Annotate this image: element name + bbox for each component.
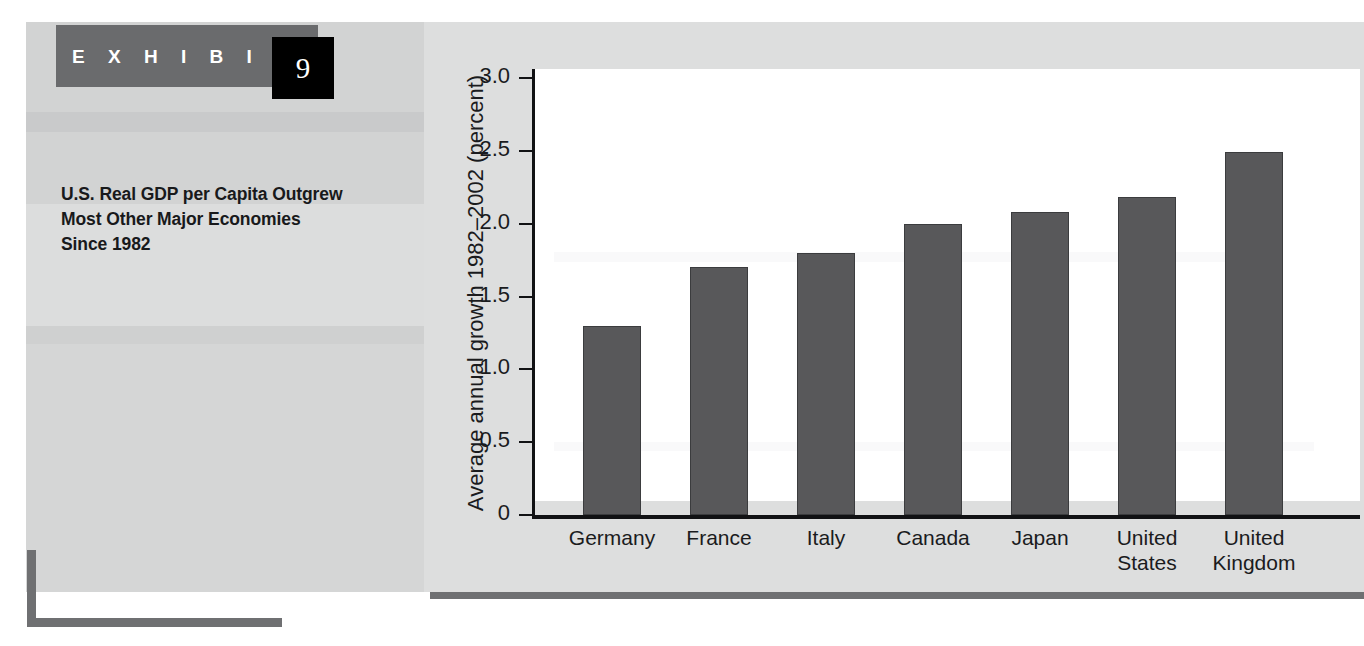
y-axis-tick-label: 2.5 [438, 136, 510, 162]
y-axis-tick-label: 1.5 [438, 282, 510, 308]
x-axis-label-line: Japan [987, 525, 1093, 550]
bar-united-states[interactable] [1118, 197, 1176, 515]
bar-canada[interactable] [904, 224, 962, 515]
x-axis-label-united-kingdom: UnitedKingdom [1201, 525, 1307, 575]
x-axis-label-line: Germany [559, 525, 665, 550]
bar-italy[interactable] [797, 253, 855, 515]
y-axis-tick-label: 3.0 [438, 63, 510, 89]
y-axis-tick-label: 2.0 [438, 209, 510, 235]
chart-panel: Average annual growth 1982–2002 (percent… [424, 22, 1364, 592]
x-axis-label-france: France [666, 525, 772, 550]
x-axis-label-italy: Italy [773, 525, 879, 550]
y-axis-tick-label: 0 [438, 500, 510, 526]
y-axis-tick-mark [519, 441, 533, 443]
exhibit-sidebar: E X H I B I T 9 U.S. Real GDP per Capita… [26, 22, 424, 592]
y-axis-tick-mark [519, 150, 533, 152]
sidebar-band-6 [26, 344, 424, 592]
exhibit-number: 9 [272, 37, 334, 99]
exhibit-title: U.S. Real GDP per Capita Outgrew Most Ot… [61, 182, 351, 257]
chart-bottom-rule [430, 592, 1364, 599]
x-axis-label-line: United [1201, 525, 1307, 550]
corner-bracket-vertical [27, 550, 36, 626]
x-axis-label-line: Canada [880, 525, 986, 550]
bar-germany[interactable] [583, 326, 641, 515]
x-axis-label-canada: Canada [880, 525, 986, 550]
x-axis-label-line: States [1094, 550, 1200, 575]
y-axis-tick-mark [519, 296, 533, 298]
x-axis-label-line: Kingdom [1201, 550, 1307, 575]
y-axis-tick-label: 0.5 [438, 427, 510, 453]
x-axis-label-line: Italy [773, 525, 879, 550]
x-axis-label-line: United [1094, 525, 1200, 550]
y-axis-tick-mark [519, 223, 533, 225]
sidebar-band-2 [26, 112, 424, 132]
exhibit-label: E X H I B I T [72, 46, 296, 68]
y-axis-tick-mark [519, 368, 533, 370]
x-axis-label-line: France [666, 525, 772, 550]
bar-united-kingdom[interactable] [1225, 152, 1283, 515]
sidebar-band-5 [26, 326, 424, 344]
y-axis-tick-label: 1.0 [438, 354, 510, 380]
y-axis-tick-mark [519, 77, 533, 79]
x-axis-label-united-states: UnitedStates [1094, 525, 1200, 575]
bar-japan[interactable] [1011, 212, 1069, 515]
corner-bracket-horizontal [27, 618, 282, 627]
x-axis-line [532, 515, 1360, 519]
y-axis-tick-mark [519, 514, 533, 516]
x-axis-label-japan: Japan [987, 525, 1093, 550]
bar-france[interactable] [690, 267, 748, 515]
x-axis-label-germany: Germany [559, 525, 665, 550]
y-axis-line [532, 69, 535, 517]
